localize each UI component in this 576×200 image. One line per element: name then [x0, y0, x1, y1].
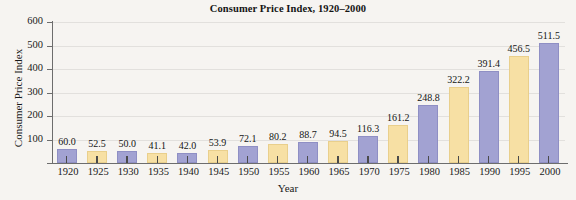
bar-value-label: 391.4 — [469, 58, 509, 69]
bar[interactable] — [449, 87, 469, 163]
y-axis-tick-label: 100 — [3, 133, 43, 144]
chart-title: Consumer Price Index, 1920–2000 — [0, 3, 576, 14]
bar-value-label: 322.2 — [439, 74, 479, 85]
bar-slot: 88.7 — [294, 22, 324, 163]
x-axis-tick — [157, 156, 158, 163]
x-axis-tick — [518, 156, 519, 163]
bar[interactable] — [509, 56, 529, 163]
x-axis-tick — [397, 156, 398, 163]
bar-slot: 94.5 — [324, 22, 354, 163]
x-axis-tick — [247, 156, 248, 163]
x-axis-title: Year — [0, 182, 576, 194]
bar[interactable] — [479, 71, 499, 163]
bar-slot: 116.3 — [354, 22, 384, 163]
cpi-bar-chart: Consumer Price Index, 1920–2000 Consumer… — [0, 0, 576, 200]
y-axis-tick-label: 200 — [3, 109, 43, 120]
bar[interactable] — [418, 105, 438, 163]
bar-value-label: 116.3 — [348, 123, 388, 134]
x-axis-tick — [337, 156, 338, 163]
bar-slot: 248.8 — [414, 22, 444, 163]
y-axis-tick-label: 300 — [3, 86, 43, 97]
bar-slot: 456.5 — [505, 22, 535, 163]
x-axis-tick — [96, 156, 97, 163]
x-axis-tick — [307, 156, 308, 163]
bar-slot: 511.5 — [535, 22, 565, 163]
plot-area: 60.052.550.041.142.053.972.180.288.794.5… — [53, 22, 565, 163]
bar-slot: 80.2 — [264, 22, 294, 163]
bar-value-label: 456.5 — [499, 43, 539, 54]
bar-value-label: 248.8 — [408, 92, 448, 103]
y-axis-tick-label: 500 — [3, 39, 43, 50]
x-axis-tick — [548, 156, 549, 163]
bar-slot: 322.2 — [445, 22, 475, 163]
y-axis-tick-label: 600 — [3, 15, 43, 26]
x-axis-tick — [217, 156, 218, 163]
x-axis-tick — [66, 156, 67, 163]
x-axis-tick — [458, 156, 459, 163]
x-axis-tick-label: 2000 — [530, 166, 570, 177]
x-axis-tick — [428, 156, 429, 163]
x-axis-line — [47, 163, 568, 164]
x-axis-tick — [277, 156, 278, 163]
bar-value-label: 511.5 — [529, 30, 569, 41]
bar-value-label: 161.2 — [378, 112, 418, 123]
x-axis-tick — [488, 156, 489, 163]
x-axis-tick — [367, 156, 368, 163]
x-axis-tick — [126, 156, 127, 163]
x-axis-tick — [187, 156, 188, 163]
y-axis-tick-label: 400 — [3, 62, 43, 73]
bar[interactable] — [539, 43, 559, 163]
